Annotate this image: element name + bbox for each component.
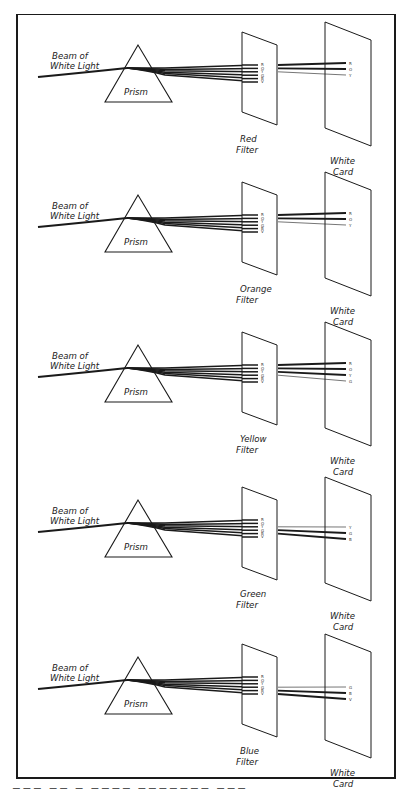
card-letter: Y — [348, 525, 352, 530]
filter-letter: V — [261, 229, 264, 234]
card-label: Card — [333, 467, 354, 477]
transmitted-ray-O — [278, 368, 346, 369]
white-card — [325, 634, 371, 758]
card-label: White — [330, 156, 355, 166]
beam-label: White Light — [50, 61, 100, 71]
filter-name-label: Green — [240, 589, 266, 599]
card-label: White — [330, 611, 355, 621]
filter-letter: V — [261, 534, 264, 539]
filter-name-label: Filter — [236, 295, 258, 305]
filter-name-label: Yellow — [240, 434, 268, 444]
card-label: Card — [333, 317, 354, 327]
prism-label: Prism — [124, 699, 148, 709]
filter-name-label: Filter — [236, 600, 258, 610]
prism-filter-diagram: Beam ofWhite LightPrismROYGBVRedFilterWh… — [0, 0, 411, 789]
beam-label: White Light — [50, 211, 100, 221]
panel-green-filter: Beam ofWhite LightPrismROYGBVGreenFilter… — [38, 477, 371, 632]
beam-label: Beam of — [52, 663, 90, 673]
ray-R — [127, 520, 258, 523]
card-letter: G — [349, 685, 352, 690]
card-letter: R — [349, 361, 352, 366]
prism-label: Prism — [124, 387, 148, 397]
ray-R — [127, 215, 258, 218]
filter-letter: V — [261, 79, 264, 84]
filter-name-label: Filter — [236, 445, 258, 455]
beam-label: Beam of — [52, 506, 90, 516]
beam-label: White Light — [50, 361, 100, 371]
white-card — [325, 22, 371, 146]
filter-name-label: Blue — [240, 746, 259, 756]
beam-label: Beam of — [52, 51, 90, 61]
beam-label: White Light — [50, 516, 100, 526]
card-letter: R — [349, 211, 352, 216]
card-letter: O — [349, 367, 352, 372]
ray-R — [127, 365, 258, 368]
card-letter: V — [349, 697, 352, 702]
card-letter: G — [349, 531, 352, 536]
filter-name-label: Red — [240, 134, 257, 144]
card-letter: B — [349, 537, 352, 542]
transmitted-ray-O — [278, 68, 346, 69]
panel-orange-filter: Beam ofWhite LightPrismROYGBVOrangeFilte… — [38, 172, 371, 327]
transmitted-ray-O — [278, 218, 346, 219]
beam-label: Beam of — [52, 351, 90, 361]
filter-letter: V — [261, 379, 264, 384]
card-label: White — [330, 306, 355, 316]
panel-yellow-filter: Beam ofWhite LightPrismROYGBVYellowFilte… — [38, 322, 371, 477]
card-letter: O — [349, 67, 352, 72]
card-letter: R — [349, 61, 352, 66]
panel-red-filter: Beam ofWhite LightPrismROYGBVRedFilterWh… — [38, 22, 371, 177]
white-card — [325, 322, 371, 446]
card-letter: Y — [348, 223, 352, 228]
card-label: Card — [333, 167, 354, 177]
panel-blue-filter: Beam ofWhite LightPrismROYGBVBlueFilterW… — [38, 634, 371, 789]
filter-name-label: Filter — [236, 757, 258, 767]
white-card — [325, 477, 371, 601]
prism-label: Prism — [124, 542, 148, 552]
beam-label: Beam of — [52, 201, 90, 211]
ray-R — [127, 65, 258, 68]
card-letter: O — [349, 217, 352, 222]
filter-name-label: Orange — [240, 284, 272, 294]
ray-R — [127, 677, 258, 680]
filter-letter: V — [261, 691, 264, 696]
card-letter: Y — [348, 73, 352, 78]
prism-label: Prism — [124, 87, 148, 97]
card-letter: Y — [348, 373, 352, 378]
card-label: White — [330, 768, 355, 778]
white-card — [325, 172, 371, 296]
card-label: Card — [333, 622, 354, 632]
beam-label: White Light — [50, 673, 100, 683]
figure-caption-truncated: ▬▬▬ ▬▬ ▬ ▬▬▬▬ ▬▬▬▬▬▬▬ ▬▬▬ — [12, 782, 342, 789]
prism-label: Prism — [124, 237, 148, 247]
card-label: White — [330, 456, 355, 466]
card-letter: B — [349, 691, 352, 696]
filter-name-label: Filter — [236, 145, 258, 155]
card-letter: G — [349, 379, 352, 384]
